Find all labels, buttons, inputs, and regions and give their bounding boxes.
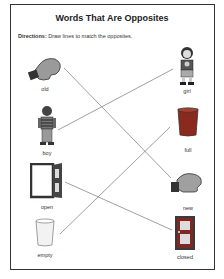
line-old-new[interactable] <box>64 68 171 178</box>
full-glass-icon <box>176 106 200 138</box>
worn-mitten-icon <box>27 55 63 85</box>
open-door-icon <box>30 163 64 199</box>
line-open-closed[interactable] <box>65 182 172 230</box>
word-empty: empty <box>25 252 65 258</box>
word-new: new <box>168 205 208 211</box>
word-girl: girl <box>167 88 207 94</box>
word-old: old <box>25 86 65 92</box>
word-full: full <box>168 147 208 153</box>
word-closed: closed <box>165 254 205 260</box>
word-open: open <box>27 204 67 210</box>
word-boy: boy <box>27 150 67 156</box>
boy-icon <box>36 105 58 147</box>
empty-glass-icon <box>34 218 56 248</box>
closed-door-icon <box>175 216 195 250</box>
line-empty-full[interactable] <box>60 127 170 234</box>
new-mitten-icon <box>169 170 205 198</box>
girl-icon <box>175 46 199 86</box>
